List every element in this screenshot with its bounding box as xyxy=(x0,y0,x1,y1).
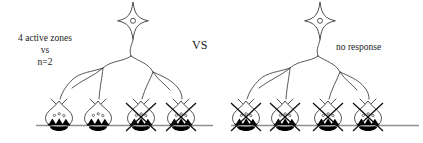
left-terminal-1 xyxy=(46,101,73,131)
left-label-line-2: vs xyxy=(6,45,84,57)
left-label-line-3: n=2 xyxy=(6,57,84,69)
left-soma-star xyxy=(118,2,149,40)
left-terminal-3 xyxy=(126,101,156,131)
left-label-line-1: 4 active zones xyxy=(18,33,72,43)
right-terminal-4 xyxy=(353,101,383,131)
neuron-diagram-svg xyxy=(0,0,423,143)
right-terminal-1 xyxy=(231,101,261,131)
left-panel-label: 4 active zones vs n=2 xyxy=(6,33,84,69)
right-terminal-2 xyxy=(270,101,300,131)
right-panel-label: no response xyxy=(336,42,381,54)
versus-label: VS xyxy=(192,38,207,53)
left-terminal-4 xyxy=(166,101,196,131)
left-terminal-2 xyxy=(85,101,112,131)
diagram-canvas: 4 active zones vs n=2 VS no response xyxy=(0,0,423,143)
right-terminal-3 xyxy=(313,101,343,131)
right-soma-star xyxy=(305,2,336,40)
right-panel-group xyxy=(231,2,419,131)
